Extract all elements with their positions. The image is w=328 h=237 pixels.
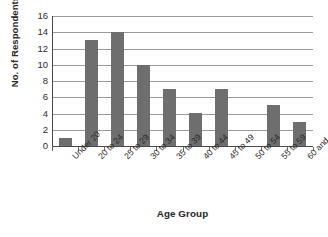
y-axis-tick-label: 16	[24, 11, 48, 21]
bar	[59, 138, 72, 146]
y-axis-tick-label: 2	[24, 125, 48, 135]
y-axis-tick-label: 10	[24, 60, 48, 70]
y-axis-tick-label: 8	[24, 76, 48, 86]
y-axis-tick-labels: 1614121086420	[24, 10, 48, 150]
x-axis-tick-label: 40 to 44	[201, 154, 208, 161]
y-axis-tick-label: 6	[24, 92, 48, 102]
x-axis-tick-label: Under 20	[70, 154, 77, 161]
x-axis-tick-label: 45 to 49	[227, 154, 234, 161]
x-axis-tick-label: 25 to 29	[122, 154, 129, 161]
plot-area	[52, 16, 313, 146]
y-axis-title: No. of Respondents	[9, 0, 20, 102]
x-axis-tick-label: 30 to 34	[148, 154, 155, 161]
bars-layer	[52, 16, 313, 146]
bar-chart-figure: No. of Respondents 1614121086420 Under 2…	[0, 0, 328, 237]
x-axis-title: Age Group	[52, 208, 313, 219]
x-axis-tick-label: 50 to 54	[253, 154, 260, 161]
y-axis-tick-label: 14	[24, 27, 48, 37]
x-axis-tick-mark	[52, 147, 53, 151]
y-axis-tick-label: 12	[24, 44, 48, 54]
y-axis-tick-label: 0	[24, 141, 48, 151]
x-axis-tick-label: 35 to 39	[174, 154, 181, 161]
y-axis-tick-label: 4	[24, 109, 48, 119]
x-axis-tick-labels: Under 2020 to 2425 to 2930 to 3435 to 39…	[52, 152, 313, 204]
x-axis-tick-label: 60 and over	[305, 154, 312, 161]
x-axis-tick-label: 55 to 59	[279, 154, 286, 161]
x-axis-tick-label: 20 to 24	[96, 154, 103, 161]
bar	[111, 32, 124, 146]
